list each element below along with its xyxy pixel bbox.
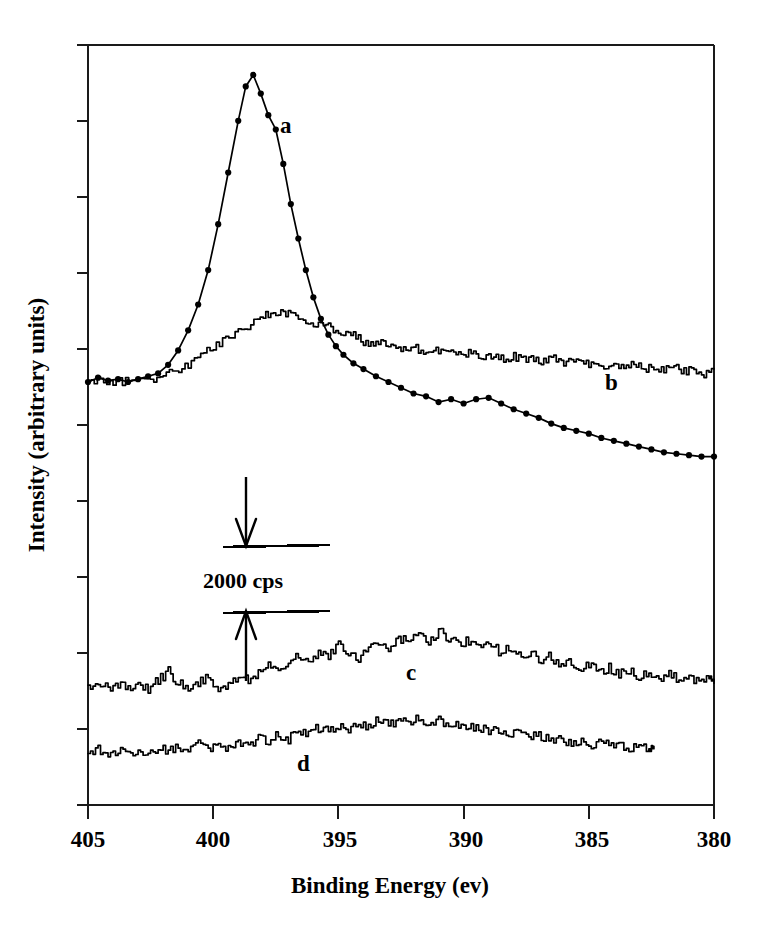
curve-label-c: c: [406, 660, 416, 685]
data-point-marker: [611, 438, 617, 444]
y-axis-title: Intensity (arbitrary units): [24, 298, 49, 552]
spectrum-curve-d: [88, 715, 654, 756]
data-point-marker: [115, 376, 121, 382]
data-point-marker: [486, 395, 492, 401]
x-axis-title: Binding Energy (ev): [291, 873, 489, 898]
data-point-marker: [461, 400, 467, 406]
data-point-marker: [273, 126, 279, 132]
data-point-marker: [280, 161, 286, 167]
data-point-marker: [340, 352, 346, 358]
data-point-marker: [265, 112, 271, 118]
data-point-marker: [195, 301, 201, 307]
data-point-marker: [698, 454, 704, 460]
data-point-marker: [410, 390, 416, 396]
data-point-marker: [473, 396, 479, 402]
scale-bar-down-arrow-icon: [236, 477, 256, 546]
data-point-marker: [215, 221, 221, 227]
curve-label-b: b: [605, 370, 618, 395]
data-point-marker: [435, 399, 441, 405]
data-point-marker: [423, 393, 429, 399]
scale-bar-top-rule: [223, 545, 330, 547]
xtick-label-395: 395: [323, 827, 358, 852]
data-point-marker: [623, 441, 629, 447]
data-point-marker: [448, 396, 454, 402]
data-point-marker: [536, 415, 542, 421]
curve-a-data-markers: [85, 72, 717, 460]
data-point-marker: [258, 91, 264, 97]
data-point-marker: [303, 267, 309, 273]
data-point-marker: [318, 316, 324, 322]
xps-spectrum-figure: a b c d 2000 cps 405 400 395 390 385 380…: [0, 0, 768, 927]
data-point-marker: [586, 431, 592, 437]
data-point-marker: [360, 366, 366, 372]
scale-bar-label: 2000 cps: [203, 568, 284, 593]
data-point-marker: [385, 379, 391, 385]
plot-frame: [88, 45, 714, 805]
data-point-marker: [135, 376, 141, 382]
data-point-marker: [165, 362, 171, 368]
data-point-marker: [398, 385, 404, 391]
spectrum-curve-b: [88, 310, 714, 385]
xtick-label-400: 400: [196, 827, 231, 852]
data-point-marker: [95, 375, 101, 381]
data-point-marker: [548, 421, 554, 427]
data-point-marker: [225, 169, 231, 175]
data-point-marker: [155, 370, 161, 376]
data-point-marker: [523, 410, 529, 416]
data-point-marker: [511, 406, 517, 412]
xtick-label-385: 385: [575, 827, 610, 852]
data-point-marker: [686, 452, 692, 458]
scale-bar-up-arrow-icon: [236, 611, 256, 681]
data-point-marker: [105, 377, 111, 383]
xtick-label-380: 380: [697, 827, 732, 852]
data-point-marker: [325, 332, 331, 338]
data-point-marker: [711, 454, 717, 460]
data-point-marker: [175, 347, 181, 353]
data-point-marker: [145, 373, 151, 379]
data-point-marker: [235, 118, 241, 124]
curve-label-d: d: [297, 751, 310, 776]
spectrum-curve-c: [88, 628, 714, 693]
xtick-label-405: 405: [71, 827, 106, 852]
data-point-marker: [288, 201, 294, 207]
data-point-marker: [125, 379, 131, 385]
data-point-marker: [561, 425, 567, 431]
data-point-marker: [205, 267, 211, 273]
data-point-marker: [498, 400, 504, 406]
curve-label-a: a: [280, 113, 292, 138]
data-point-marker: [85, 379, 91, 385]
data-point-marker: [648, 446, 654, 452]
data-point-marker: [573, 428, 579, 434]
data-point-marker: [598, 435, 604, 441]
data-point-marker: [250, 72, 256, 78]
x-axis-ticks: [88, 805, 714, 819]
data-point-marker: [310, 294, 316, 300]
y-axis-ticks: [77, 45, 88, 805]
data-point-marker: [673, 451, 679, 457]
spectrum-curve-a: [88, 75, 714, 457]
data-point-marker: [373, 373, 379, 379]
intensity-scale-bar: 2000 cps: [203, 477, 330, 681]
spectrum-plot-svg: a b c d 2000 cps 405 400 395 390 385 380…: [0, 0, 768, 927]
spectra-curves: [88, 75, 714, 757]
data-point-marker: [636, 443, 642, 449]
data-point-marker: [295, 235, 301, 241]
data-point-marker: [243, 83, 249, 89]
data-point-marker: [661, 449, 667, 455]
data-point-marker: [185, 327, 191, 333]
xtick-label-390: 390: [449, 827, 484, 852]
scale-bar-bottom-rule: [223, 611, 330, 613]
data-point-marker: [333, 343, 339, 349]
data-point-marker: [350, 360, 356, 366]
